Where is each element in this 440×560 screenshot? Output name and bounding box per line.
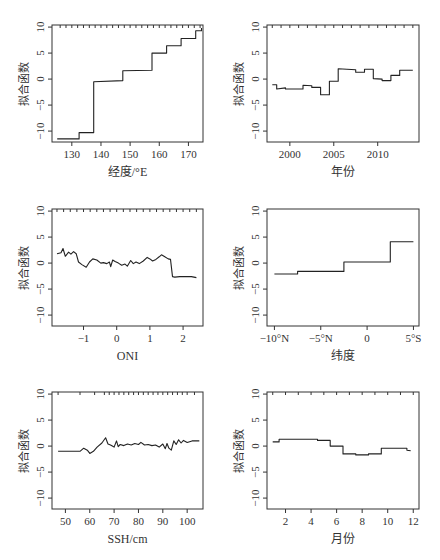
chart-grid: 130140150160170−10−50510经度/°E拟合函数2000200… xyxy=(0,0,440,560)
y-tick-label: 10 xyxy=(34,388,46,400)
x-axis-label: ONI xyxy=(117,349,138,363)
plot-frame xyxy=(267,25,419,142)
y-tick-label: −10 xyxy=(34,489,46,507)
x-tick-label: 5°S xyxy=(405,332,421,344)
y-tick-label: −5 xyxy=(34,99,46,111)
y-tick-label: −10 xyxy=(249,306,261,324)
y-axis-label: 拟合函数 xyxy=(232,429,246,473)
y-axis-label: 拟合函数 xyxy=(232,246,246,290)
x-tick-label: 2 xyxy=(180,332,186,344)
x-tick-label: 2 xyxy=(283,515,289,527)
fitted-function-line xyxy=(274,242,413,274)
x-axis-label: 年份 xyxy=(331,165,355,179)
x-axis-label: 经度/°E xyxy=(108,164,147,179)
panel-bottom-left: 5060708090100−10−50510SSH/cm拟合函数 xyxy=(17,388,203,546)
x-tick-label: −5°N xyxy=(309,332,333,344)
y-tick-label: 5 xyxy=(34,50,46,56)
x-tick-label: 100 xyxy=(179,515,196,527)
y-tick-label: 5 xyxy=(34,234,46,240)
x-tick-label: 8 xyxy=(359,515,365,527)
y-tick-label: 0 xyxy=(249,260,261,266)
y-tick-label: 0 xyxy=(34,443,46,449)
y-tick-label: 10 xyxy=(249,21,261,33)
fitted-function-line xyxy=(272,69,413,95)
y-tick-label: 5 xyxy=(249,50,261,56)
x-tick-label: 160 xyxy=(151,148,168,160)
x-tick-label: 2010 xyxy=(367,148,390,160)
y-tick-label: −5 xyxy=(249,99,261,111)
fitted-function-line xyxy=(57,28,201,139)
y-axis-label: 拟合函数 xyxy=(17,246,31,290)
x-tick-label: −10°N xyxy=(260,332,290,344)
x-tick-label: 0 xyxy=(364,332,370,344)
y-axis-label: 拟合函数 xyxy=(17,62,31,106)
x-tick-label: 70 xyxy=(109,515,121,527)
x-axis-label: 月份 xyxy=(331,532,355,546)
x-tick-label: 140 xyxy=(93,148,110,160)
x-axis-label: 纬度 xyxy=(331,348,355,363)
y-tick-label: −10 xyxy=(34,306,46,324)
x-tick-label: 90 xyxy=(157,515,169,527)
figure: 130140150160170−10−50510经度/°E拟合函数2000200… xyxy=(0,0,440,560)
y-tick-label: −10 xyxy=(249,122,261,140)
x-tick-label: 2000 xyxy=(279,148,302,160)
x-tick-label: 60 xyxy=(84,515,96,527)
x-tick-label: 80 xyxy=(133,515,145,527)
fitted-function-line xyxy=(58,438,199,454)
panel-top-left: 130140150160170−10−50510经度/°E拟合函数 xyxy=(17,21,203,179)
y-axis-label: 拟合函数 xyxy=(232,62,246,106)
y-tick-label: −5 xyxy=(34,283,46,295)
x-tick-label: 2005 xyxy=(323,148,346,160)
x-tick-label: 50 xyxy=(60,515,72,527)
x-tick-label: 6 xyxy=(334,515,340,527)
panel-bottom-right: 24681012−10−50510月份拟合函数 xyxy=(232,388,419,546)
x-tick-label: 4 xyxy=(308,515,314,527)
x-tick-label: 1 xyxy=(147,332,153,344)
panel-middle-left: −1012−10−50510ONI拟合函数 xyxy=(17,205,203,363)
x-tick-label: −1 xyxy=(78,332,90,344)
y-tick-label: −10 xyxy=(249,489,261,507)
plot-frame xyxy=(267,209,419,326)
y-tick-label: 5 xyxy=(249,234,261,240)
y-tick-label: 0 xyxy=(34,76,46,82)
x-tick-label: 0 xyxy=(114,332,120,344)
y-axis-label: 拟合函数 xyxy=(17,429,31,473)
y-tick-label: −10 xyxy=(34,122,46,140)
y-tick-label: 0 xyxy=(249,443,261,449)
x-tick-label: 150 xyxy=(122,148,139,160)
y-tick-label: 10 xyxy=(249,388,261,400)
x-tick-label: 170 xyxy=(180,148,197,160)
x-tick-label: 130 xyxy=(64,148,81,160)
plot-frame xyxy=(52,392,203,509)
y-tick-label: 5 xyxy=(249,417,261,423)
panel-middle-right: −10°N−5°N05°S−10−50510纬度拟合函数 xyxy=(232,205,421,363)
y-tick-label: −5 xyxy=(34,466,46,478)
x-tick-label: 12 xyxy=(408,515,419,527)
y-tick-label: 5 xyxy=(34,417,46,423)
y-tick-label: −5 xyxy=(249,466,261,478)
fitted-function-line xyxy=(273,439,411,455)
panel-top-right: 200020052010−10−50510年份拟合函数 xyxy=(232,21,419,179)
y-tick-label: 0 xyxy=(34,260,46,266)
y-tick-label: 10 xyxy=(34,205,46,217)
y-tick-label: 10 xyxy=(249,205,261,217)
y-tick-label: 10 xyxy=(34,21,46,33)
x-tick-label: 10 xyxy=(382,515,394,527)
y-tick-label: 0 xyxy=(249,76,261,82)
plot-frame xyxy=(52,209,203,326)
x-axis-label: SSH/cm xyxy=(107,532,148,546)
fitted-function-line xyxy=(57,249,196,278)
plot-frame xyxy=(52,25,203,142)
y-tick-label: −5 xyxy=(249,283,261,295)
